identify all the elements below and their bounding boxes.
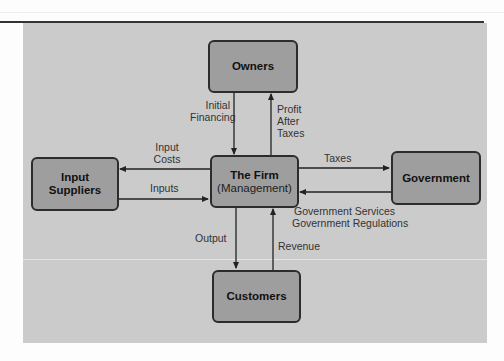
node-owners: Owners: [208, 40, 298, 93]
node-government: Government: [391, 151, 481, 205]
node-firm-label: The Firm: [230, 169, 279, 182]
label-input-costs: Input Costs: [150, 141, 184, 165]
label-gov-services-line2: Government Regulations: [292, 217, 402, 229]
label-inputs-text: Inputs: [150, 182, 179, 194]
node-owners-label: Owners: [232, 60, 274, 73]
node-firm-sublabel: (Management): [217, 182, 292, 195]
label-profit-after-taxes: Profit After Taxes: [277, 103, 304, 139]
label-revenue-text: Revenue: [278, 240, 320, 252]
node-customers-label: Customers: [226, 290, 286, 303]
node-input-suppliers-line1: Input: [61, 171, 89, 184]
label-taxes: Taxes: [324, 152, 351, 164]
label-gov-services-line1: Government Services: [292, 205, 402, 217]
label-government-services: Government Services Government Regulatio…: [292, 205, 402, 229]
label-profit-line2: After: [277, 115, 304, 127]
label-profit-line1: Profit: [277, 103, 304, 115]
node-the-firm: The Firm (Management): [210, 155, 299, 208]
label-input-costs-line1: Input: [150, 141, 184, 153]
label-initial-financing-line2: Financing: [190, 111, 230, 123]
label-output-text: Output: [195, 232, 227, 244]
label-input-costs-line2: Costs: [150, 153, 184, 165]
node-customers: Customers: [212, 270, 301, 323]
label-taxes-text: Taxes: [324, 152, 351, 164]
label-inputs: Inputs: [150, 182, 179, 194]
node-input-suppliers-line2: Suppliers: [49, 184, 101, 197]
node-input-suppliers: Input Suppliers: [31, 157, 119, 211]
node-government-label: Government: [402, 172, 470, 185]
label-initial-financing-line1: Initial: [190, 99, 230, 111]
label-revenue: Revenue: [278, 240, 320, 252]
label-output: Output: [195, 232, 227, 244]
label-initial-financing: Initial Financing: [190, 99, 230, 123]
label-profit-line3: Taxes: [277, 127, 304, 139]
